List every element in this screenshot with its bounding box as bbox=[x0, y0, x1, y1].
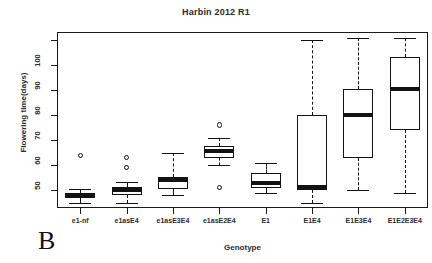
x-axis-tick bbox=[405, 208, 406, 214]
x-axis-tick bbox=[173, 208, 174, 214]
x-axis-tick-label: E1E3E4 bbox=[346, 217, 372, 224]
x-axis-tick bbox=[80, 208, 81, 214]
boxplot-median bbox=[390, 87, 420, 91]
x-axis-tick-label: E1E2E3E4 bbox=[388, 217, 422, 224]
y-axis-tick-label: 60 bbox=[33, 152, 42, 170]
boxplot-whisker-lower bbox=[405, 130, 406, 193]
x-axis-tick bbox=[358, 208, 359, 214]
y-axis-tick-label: 100 bbox=[33, 51, 42, 69]
boxplot-cap-upper bbox=[394, 38, 416, 39]
x-axis-tick-label: e1-nf bbox=[72, 217, 89, 224]
y-axis-tick-label: 80 bbox=[33, 101, 42, 119]
x-axis-tick-label: e1asE4 bbox=[114, 217, 138, 224]
x-axis-tick bbox=[219, 208, 220, 214]
x-axis-tick bbox=[312, 208, 313, 214]
boxplot-whisker-upper bbox=[405, 38, 406, 57]
y-axis-tick-label: 70 bbox=[33, 127, 42, 145]
y-axis-title: Flowering time(days) bbox=[19, 43, 28, 183]
boxplot-figure: Harbin 2012 R1 Flowering time(days) 5060… bbox=[0, 0, 432, 263]
panel-letter: B bbox=[38, 228, 55, 254]
y-axis-tick-label: 90 bbox=[33, 76, 42, 94]
boxplot-series bbox=[57, 32, 428, 208]
boxplot-iqr-box bbox=[390, 57, 420, 130]
x-axis-tick-label: E1 bbox=[261, 217, 270, 224]
chart-title: Harbin 2012 R1 bbox=[0, 7, 432, 17]
y-axis-tick-label: 50 bbox=[33, 177, 42, 195]
x-axis-title: Genotype bbox=[57, 243, 428, 252]
x-axis-tick-label: E1E4 bbox=[304, 217, 321, 224]
x-axis-tick-label: e1asE3E4 bbox=[157, 217, 190, 224]
boxplot-cap-lower bbox=[394, 193, 416, 194]
x-axis-tick bbox=[127, 208, 128, 214]
x-axis-tick-label: e1asE2E4 bbox=[203, 217, 236, 224]
boxplot-box bbox=[57, 32, 428, 208]
x-axis-tick bbox=[266, 208, 267, 214]
